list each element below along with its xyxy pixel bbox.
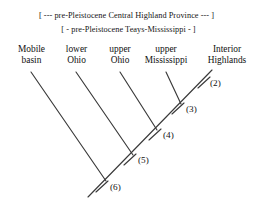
node-label-4: (4) <box>163 130 174 140</box>
node-label-6: (6) <box>110 182 121 192</box>
node-label-5: (5) <box>138 155 149 165</box>
cladogram-branches <box>0 0 259 205</box>
branch-upper-ohio <box>120 72 157 130</box>
branch-backbone <box>88 70 212 197</box>
tick-node-4 <box>149 129 161 140</box>
cladogram-figure: [ --- pre-Pleistocene Central Highland P… <box>0 0 259 205</box>
branch-lower-ohio <box>76 72 133 155</box>
node-label-2: (2) <box>210 78 221 88</box>
branch-upper-mississippi <box>166 72 181 104</box>
node-label-3: (3) <box>186 104 197 114</box>
tick-node-5 <box>124 154 136 165</box>
branch-mobile-basin <box>31 72 106 181</box>
